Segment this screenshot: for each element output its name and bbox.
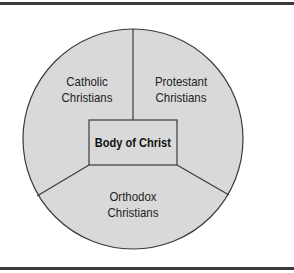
segment-orthodox: Orthodox Christians — [102, 189, 164, 221]
segment-catholic-line1: Catholic — [56, 74, 118, 90]
center-label-text: Body of Christ — [95, 135, 171, 150]
segment-orthodox-line1: Orthodox — [102, 189, 164, 205]
segment-catholic-line2: Christians — [56, 90, 118, 106]
segment-protestant: Protestant Christians — [148, 74, 215, 106]
segment-orthodox-line2: Christians — [102, 205, 164, 221]
segment-protestant-line1: Protestant — [148, 74, 215, 90]
center-label: Body of Christ — [88, 120, 178, 165]
segment-catholic: Catholic Christians — [56, 74, 118, 106]
segment-protestant-line2: Christians — [148, 90, 215, 106]
